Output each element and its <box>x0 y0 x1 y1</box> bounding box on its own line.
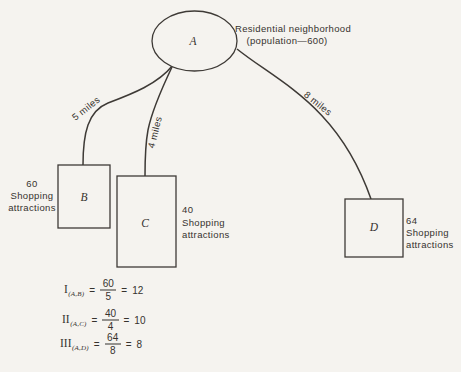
formula-index-2: II(A,C) <box>62 313 87 328</box>
attractions-value-c: 40 <box>182 204 193 215</box>
fraction-denominator-2: 4 <box>108 321 114 332</box>
attractions-word2-d: attractions <box>406 239 454 250</box>
formula-subscript-1: (A,B) <box>68 289 84 297</box>
attractions-word2-b: attractions <box>8 202 56 213</box>
equals-sign: = <box>124 315 130 326</box>
fraction-numerator-2: 40 <box>102 309 118 321</box>
formula-result-1: 12 <box>132 285 143 296</box>
fraction-1: 60 5 <box>100 279 116 302</box>
attractions-word2-c: attractions <box>182 229 230 240</box>
gravity-model-diagram: A Residential neighborhood (population—6… <box>0 0 461 372</box>
fraction-numerator-3: 64 <box>105 333 121 345</box>
fraction-3: 64 8 <box>105 333 121 356</box>
equals-sign: = <box>94 339 100 350</box>
formula-row-1: I(A,B) = 60 5 = 12 <box>64 279 143 302</box>
distance-label-a-b: 5 miles <box>70 94 102 123</box>
equals-sign: = <box>92 315 98 326</box>
fraction-numerator-1: 60 <box>100 279 116 291</box>
route-a-b <box>83 65 173 165</box>
origin-node-label: A <box>188 35 197 47</box>
destination-label-b: B <box>80 191 87 203</box>
equals-sign: = <box>89 285 95 296</box>
fraction-denominator-1: 5 <box>105 291 111 302</box>
fraction-2: 40 4 <box>102 309 118 332</box>
formula-result-3: 8 <box>137 339 143 350</box>
distance-label-a-d: 8 miles <box>302 89 334 118</box>
attractions-word1-b: Shopping <box>11 190 54 201</box>
formula-index-1: I(A,B) <box>64 283 84 298</box>
attractions-word1-d: Shopping <box>406 227 449 238</box>
formula-row-2: II(A,C) = 40 4 = 10 <box>62 309 145 332</box>
fraction-denominator-3: 8 <box>110 345 116 356</box>
equals-sign: = <box>121 285 127 296</box>
formula-subscript-3: (A,D) <box>72 343 89 351</box>
attractions-word1-c: Shopping <box>182 217 225 228</box>
attractions-value-b: 60 <box>26 178 37 189</box>
destination-label-d: D <box>369 221 379 233</box>
origin-caption-line2: (population—600) <box>246 35 327 46</box>
formula-subscript-2: (A,C) <box>70 319 86 327</box>
destination-label-c: C <box>141 217 149 229</box>
origin-caption-line1: Residential neighborhood <box>235 23 351 34</box>
equals-sign: = <box>126 339 132 350</box>
route-a-d <box>237 49 371 199</box>
formula-row-3: III(A,D) = 64 8 = 8 <box>60 333 142 356</box>
formula-index-3: III(A,D) <box>60 337 89 352</box>
attractions-value-d: 64 <box>406 215 417 226</box>
formula-result-2: 10 <box>134 315 145 326</box>
distance-label-a-c: 4 miles <box>145 115 164 149</box>
